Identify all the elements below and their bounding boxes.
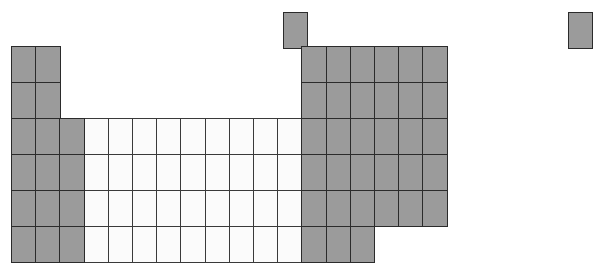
element-cell-group-1-period-6: [11, 190, 36, 227]
element-cell-group-18-period-5: [422, 154, 447, 191]
element-cell-group-8-period-4: [180, 118, 205, 155]
element-cell-group-13-period-7: [301, 226, 326, 263]
element-cell-group-15-period-6: [350, 190, 375, 227]
element-cell-group-12-period-5: [277, 154, 302, 191]
element-cell-group-15-period-3: [350, 82, 375, 119]
element-cell-group-14-period-7: [326, 226, 351, 263]
element-cell-group-16-period-2: [374, 46, 399, 83]
element-cell-group-10-period-6: [229, 190, 254, 227]
element-cell-group-8-period-5: [180, 154, 205, 191]
element-cell-group-15-period-7: [350, 226, 375, 263]
element-cell-group-15-period-2: [350, 46, 375, 83]
element-cell-group-9-period-6: [205, 190, 230, 227]
element-cell-hydrogen: [283, 12, 308, 49]
element-cell-group-14-period-3: [326, 82, 351, 119]
element-cell-group-2-period-3: [35, 82, 60, 119]
element-cell-group-5-period-6: [108, 190, 133, 227]
element-cell-group-3-period-4: [59, 118, 84, 155]
element-cell-group-1-period-7: [11, 226, 36, 263]
element-cell-group-18-period-2: [422, 46, 447, 83]
element-cell-group-4-period-5: [84, 154, 109, 191]
element-cell-group-11-period-4: [253, 118, 278, 155]
element-cell-group-5-period-7: [108, 226, 133, 263]
element-cell-group-10-period-7: [229, 226, 254, 263]
element-cell-group-5-period-5: [108, 154, 133, 191]
element-cell-group-16-period-3: [374, 82, 399, 119]
element-cell-group-17-period-4: [398, 118, 423, 155]
element-cell-group-14-period-4: [326, 118, 351, 155]
element-cell-group-3-period-6: [59, 190, 84, 227]
element-cell-group-13-period-3: [301, 82, 326, 119]
element-cell-group-13-period-4: [301, 118, 326, 155]
element-cell-group-7-period-7: [156, 226, 181, 263]
element-cell-group-14-period-5: [326, 154, 351, 191]
element-cell-group-7-period-5: [156, 154, 181, 191]
element-cell-group-13-period-2: [301, 46, 326, 83]
element-cell-group-6-period-5: [132, 154, 157, 191]
element-cell-group-10-period-5: [229, 154, 254, 191]
element-cell-group-12-period-7: [277, 226, 302, 263]
element-cell-group-11-period-5: [253, 154, 278, 191]
element-cell-group-9-period-7: [205, 226, 230, 263]
element-cell-group-1-period-4: [11, 118, 36, 155]
element-cell-group-8-period-6: [180, 190, 205, 227]
element-cell-group-18-period-6: [422, 190, 447, 227]
element-cell-group-1-period-5: [11, 154, 36, 191]
element-cell-group-6-period-4: [132, 118, 157, 155]
element-cell-group-4-period-4: [84, 118, 109, 155]
element-cell-group-13-period-6: [301, 190, 326, 227]
element-cell-group-1-period-2: [11, 46, 36, 83]
element-cell-group-15-period-5: [350, 154, 375, 191]
element-cell-group-1-period-3: [11, 82, 36, 119]
element-cell-helium: [568, 12, 593, 49]
element-cell-group-2-period-7: [35, 226, 60, 263]
element-cell-group-2-period-6: [35, 190, 60, 227]
element-cell-group-6-period-7: [132, 226, 157, 263]
element-cell-group-15-period-4: [350, 118, 375, 155]
element-cell-group-18-period-3: [422, 82, 447, 119]
element-cell-group-10-period-4: [229, 118, 254, 155]
element-cell-group-16-period-5: [374, 154, 399, 191]
element-cell-group-8-period-7: [180, 226, 205, 263]
element-cell-group-7-period-6: [156, 190, 181, 227]
element-cell-group-17-period-3: [398, 82, 423, 119]
element-cell-group-2-period-4: [35, 118, 60, 155]
element-cell-group-14-period-2: [326, 46, 351, 83]
element-cell-group-18-period-4: [422, 118, 447, 155]
element-cell-group-6-period-6: [132, 190, 157, 227]
element-cell-group-16-period-4: [374, 118, 399, 155]
element-cell-group-17-period-5: [398, 154, 423, 191]
element-cell-group-16-period-6: [374, 190, 399, 227]
element-cell-group-17-period-6: [398, 190, 423, 227]
element-cell-group-2-period-5: [35, 154, 60, 191]
element-cell-group-7-period-4: [156, 118, 181, 155]
element-cell-group-13-period-5: [301, 154, 326, 191]
element-cell-group-12-period-6: [277, 190, 302, 227]
element-cell-group-17-period-2: [398, 46, 423, 83]
element-cell-group-3-period-5: [59, 154, 84, 191]
element-cell-group-4-period-7: [84, 226, 109, 263]
element-cell-group-9-period-5: [205, 154, 230, 191]
element-cell-group-11-period-6: [253, 190, 278, 227]
element-cell-group-14-period-6: [326, 190, 351, 227]
element-cell-group-3-period-7: [59, 226, 84, 263]
element-cell-group-12-period-4: [277, 118, 302, 155]
element-cell-group-5-period-4: [108, 118, 133, 155]
element-cell-group-9-period-4: [205, 118, 230, 155]
element-cell-group-11-period-7: [253, 226, 278, 263]
element-cell-group-4-period-6: [84, 190, 109, 227]
element-cell-group-2-period-2: [35, 46, 60, 83]
